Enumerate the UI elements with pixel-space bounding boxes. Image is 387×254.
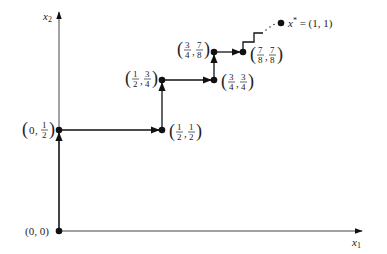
svg-text:1: 1 (189, 122, 194, 132)
label-half-3q: ( 1 2 , 3 4 ) (125, 68, 158, 89)
svg-text:7: 7 (197, 40, 202, 50)
svg-text:2: 2 (42, 130, 47, 140)
point-3q-3q (211, 77, 218, 84)
point-limit (278, 20, 285, 27)
point-half-half (159, 127, 166, 134)
svg-text:(: ( (250, 44, 256, 65)
svg-text:3: 3 (145, 69, 150, 79)
svg-text:,: , (184, 127, 187, 139)
svg-text:,: , (192, 45, 195, 57)
svg-text:(: ( (221, 71, 227, 92)
point-0-0 (56, 228, 63, 235)
svg-text:): ) (196, 121, 202, 142)
svg-text:,: , (35, 124, 38, 136)
point-7e-7e (240, 49, 247, 56)
svg-text:): ) (204, 39, 210, 60)
point-3q-7e (211, 49, 218, 56)
svg-text:(: ( (22, 119, 28, 140)
label-0-half: ( 0 , 1 2 ) (22, 119, 55, 140)
svg-text:8: 8 (197, 50, 202, 60)
y-axis-label: x2 (42, 10, 52, 24)
svg-text:): ) (49, 119, 55, 140)
svg-text:2: 2 (189, 132, 194, 142)
label-0-0: (0, 0) (25, 225, 49, 238)
svg-text:1: 1 (133, 69, 138, 79)
label-3q-7e: ( 3 4 , 7 8 ) (177, 39, 210, 60)
label-7e-7e: ( 7 8 , 7 8 ) (250, 44, 283, 65)
svg-text:7: 7 (258, 45, 263, 55)
ellipsis (265, 24, 275, 31)
point-0-half (56, 127, 63, 134)
svg-text:4: 4 (185, 50, 190, 60)
svg-text:8: 8 (258, 55, 263, 65)
x-axis-label: x1 (351, 236, 361, 250)
svg-text:,: , (265, 50, 268, 62)
svg-text:(: ( (169, 121, 175, 142)
svg-text:1: 1 (177, 122, 182, 132)
svg-text:4: 4 (229, 82, 234, 92)
svg-text:2: 2 (177, 132, 182, 142)
svg-text:3: 3 (241, 72, 246, 82)
svg-text:): ) (152, 68, 158, 89)
svg-text:): ) (277, 44, 283, 65)
label-limit: x* = (1, 1) (287, 16, 333, 30)
svg-text:): ) (248, 71, 254, 92)
svg-text:4: 4 (145, 79, 150, 89)
labels: (0, 0) ( 0 , 1 2 ) ( 1 2 , 1 2 ) ( 1 (22, 16, 333, 238)
svg-text:8: 8 (270, 55, 275, 65)
svg-text:3: 3 (185, 40, 190, 50)
convergence-diagram: x1 x2 (0, 0) ( 0 , 1 (0, 0, 387, 254)
svg-text:1: 1 (42, 120, 47, 130)
svg-text:,: , (140, 74, 143, 86)
point-half-3q (159, 77, 166, 84)
svg-text:,: , (236, 77, 239, 89)
label-half-half: ( 1 2 , 1 2 ) (169, 121, 202, 142)
svg-text:2: 2 (133, 79, 138, 89)
svg-text:3: 3 (229, 72, 234, 82)
svg-text:(: ( (125, 68, 131, 89)
svg-text:(: ( (177, 39, 183, 60)
svg-text:4: 4 (241, 82, 246, 92)
label-3q-3q: ( 3 4 , 3 4 ) (221, 71, 254, 92)
svg-text:7: 7 (270, 45, 275, 55)
